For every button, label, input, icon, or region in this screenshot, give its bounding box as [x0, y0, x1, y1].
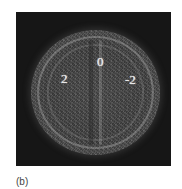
figure-caption: (b): [16, 176, 28, 187]
order-label-zero: 0: [97, 55, 104, 68]
interference-disk: [31, 30, 160, 155]
order-label-left: 2: [61, 72, 68, 85]
dark-fringe: [89, 40, 93, 145]
inner-ring: [47, 44, 144, 141]
order-label-right: -2: [125, 73, 136, 86]
figure-image-panel: 0 2 -2: [16, 12, 171, 166]
